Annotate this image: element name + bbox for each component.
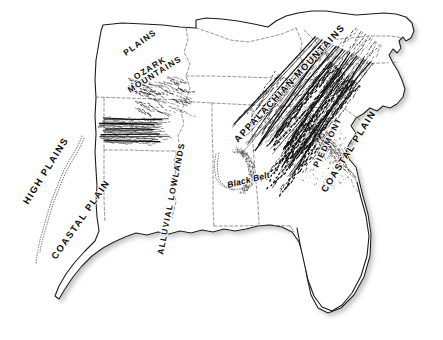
map-canvas: HIGH PLAINSCOASTAL PLAINPLAINSOZARKMOUNT… (0, 0, 443, 340)
physiographic-map: HIGH PLAINSCOASTAL PLAINPLAINSOZARKMOUNT… (0, 0, 443, 340)
map-label-high-plains: HIGH PLAINS (20, 135, 70, 206)
